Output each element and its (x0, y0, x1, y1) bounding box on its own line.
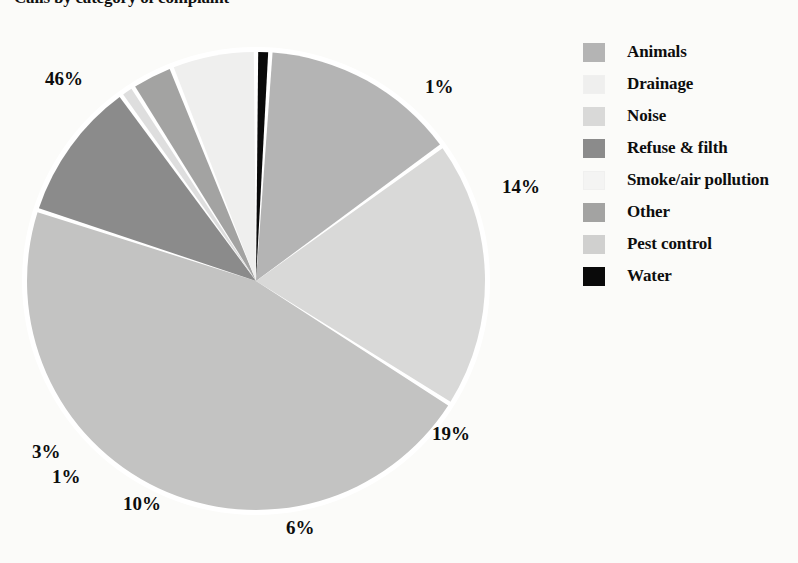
legend-item[interactable]: Refuse & filth (583, 132, 795, 164)
slice-label-smoke-air-pollution: 46% (45, 68, 83, 90)
legend-item-label: Refuse & filth (627, 138, 728, 158)
legend-swatch-icon (583, 43, 605, 62)
legend-item[interactable]: Water (583, 260, 795, 292)
legend-item-label: Pest control (627, 234, 712, 254)
pie-chart-svg (0, 0, 560, 563)
legend-swatch-icon (583, 75, 605, 94)
legend-item[interactable]: Animals (583, 36, 795, 68)
legend-item-label: Smoke/air pollution (627, 170, 769, 190)
legend-swatch-icon (583, 267, 605, 286)
legend-item[interactable]: Smoke/air pollution (583, 164, 795, 196)
legend-item-label: Water (627, 266, 672, 286)
legend-item-label: Drainage (627, 74, 693, 94)
legend-item-label: Noise (627, 106, 666, 126)
slice-label-animals: 14% (502, 176, 540, 198)
legend-swatch-icon (583, 235, 605, 254)
legend-swatch-icon (583, 139, 605, 158)
slice-label-refuse-filth: 10% (123, 493, 161, 515)
legend-item-label: Animals (627, 42, 687, 62)
pie-slices (22, 47, 490, 515)
slice-label-drainage: 6% (286, 517, 315, 539)
legend-item[interactable]: Pest control (583, 228, 795, 260)
legend-swatch-icon (583, 171, 605, 190)
slice-label-noise: 19% (432, 423, 470, 445)
legend-item[interactable]: Other (583, 196, 795, 228)
slice-label-water: 1% (425, 76, 454, 98)
chart-page: Calls by category of complaint 46% 1% 14… (0, 0, 798, 563)
legend-swatch-icon (583, 203, 605, 222)
slice-label-pest-control: 1% (52, 466, 81, 488)
legend-item[interactable]: Noise (583, 100, 795, 132)
chart-legend: AnimalsDrainageNoiseRefuse & filthSmoke/… (583, 36, 795, 292)
legend-swatch-icon (583, 107, 605, 126)
slice-label-other: 3% (32, 441, 61, 463)
pie-chart (0, 0, 560, 563)
legend-item-label: Other (627, 202, 670, 222)
legend-item[interactable]: Drainage (583, 68, 795, 100)
